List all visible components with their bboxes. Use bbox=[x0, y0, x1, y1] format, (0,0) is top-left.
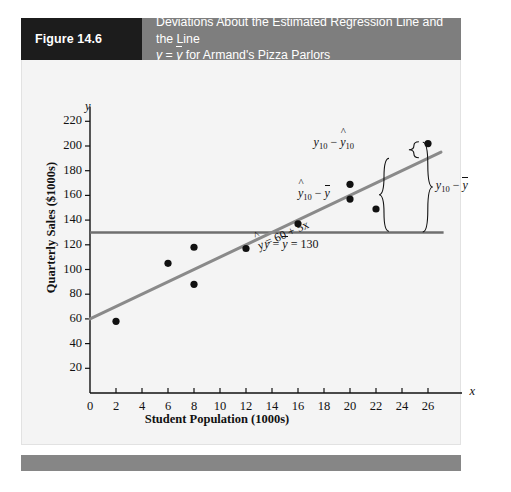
residual-brace bbox=[409, 142, 419, 158]
residual-deviation-label: y10 − y10 bbox=[314, 134, 354, 151]
mean-label-value: 130 bbox=[300, 237, 318, 251]
y-tick-label: 100 bbox=[44, 262, 82, 277]
figure-title: Deviations About the Estimated Regressio… bbox=[142, 18, 461, 60]
x-tick-label: 26 bbox=[413, 399, 443, 414]
figure-title-line1: Deviations About the Estimated Regressio… bbox=[156, 14, 451, 47]
explained-brace bbox=[379, 158, 389, 231]
y-axis-symbol: y bbox=[85, 99, 91, 114]
y-tick-label: 60 bbox=[44, 311, 82, 326]
total-y-sub: 10 bbox=[441, 184, 450, 194]
explained-deviation-label: y10 − y bbox=[298, 185, 330, 202]
expl-yhat-sub: 10 bbox=[303, 192, 312, 202]
figure-caption-bar: Figure 14.6 Deviations About the Estimat… bbox=[21, 18, 461, 60]
y-tick-label: 160 bbox=[44, 187, 82, 202]
figure-number-label: Figure 14.6 bbox=[35, 32, 102, 46]
scatter-plot: Quarterly Sales ($1000s) Student Populat… bbox=[22, 60, 462, 445]
data-point bbox=[346, 196, 353, 203]
expl-yhat: y bbox=[298, 185, 303, 201]
y-tick-label: 40 bbox=[44, 336, 82, 351]
total-deviation-label: y10 − y bbox=[436, 178, 468, 194]
x-axis-title: Student Population (1000s) bbox=[52, 412, 382, 427]
resid-yhat-sub: 10 bbox=[346, 142, 355, 152]
data-point bbox=[372, 205, 379, 212]
figure-footer-bar bbox=[21, 455, 461, 471]
x-axis-symbol: x bbox=[470, 384, 476, 399]
mean-label-eq1: = bbox=[273, 237, 280, 251]
data-point bbox=[164, 260, 171, 267]
y-tick-label: 120 bbox=[44, 237, 82, 252]
expl-minus: − bbox=[315, 186, 322, 200]
figure-number-tag: Figure 14.6 bbox=[21, 18, 142, 60]
expl-ybar: y bbox=[325, 186, 330, 201]
figure-panel: Quarterly Sales ($1000s) Student Populat… bbox=[21, 60, 461, 445]
mean-label-eq2: = bbox=[291, 237, 298, 251]
total-ybar: y bbox=[462, 178, 467, 193]
figure-page: Figure 14.6 Deviations About the Estimat… bbox=[0, 0, 511, 492]
resid-yhat: y bbox=[340, 134, 345, 150]
resid-y-sub: 10 bbox=[319, 142, 328, 152]
data-point bbox=[112, 318, 119, 325]
plot-canvas bbox=[22, 60, 462, 445]
total-minus: − bbox=[453, 178, 460, 192]
mean-label-ybar: y bbox=[282, 237, 287, 252]
data-point bbox=[242, 245, 249, 252]
mean-line-label: y = y = 130 bbox=[264, 237, 318, 252]
y-tick-label: 20 bbox=[44, 360, 82, 375]
y-tick-label: 180 bbox=[44, 163, 82, 178]
mean-label-y: y bbox=[264, 237, 269, 251]
y-tick-label: 220 bbox=[44, 113, 82, 128]
data-point bbox=[190, 281, 197, 288]
y-tick-label: 200 bbox=[44, 138, 82, 153]
data-point bbox=[346, 181, 353, 188]
resid-minus: − bbox=[330, 135, 337, 149]
data-point bbox=[424, 140, 431, 147]
data-point bbox=[190, 244, 197, 251]
y-tick-label: 140 bbox=[44, 212, 82, 227]
y-tick-label: 80 bbox=[44, 286, 82, 301]
